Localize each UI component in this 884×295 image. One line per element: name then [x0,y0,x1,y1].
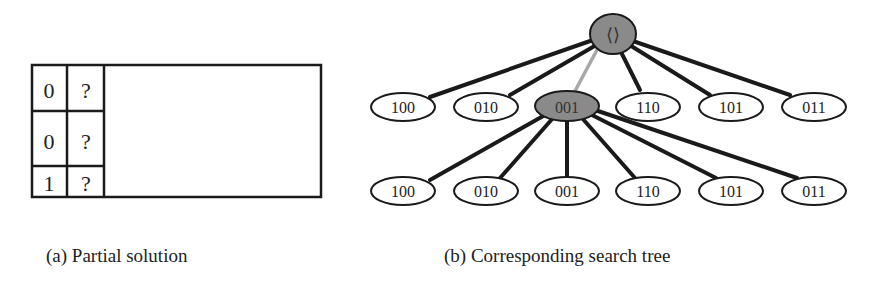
tree-node-label: 010 [474,183,498,200]
tree-node: 010 [454,177,518,205]
grid-cell: 0 [44,129,55,154]
tree-edge [430,40,593,97]
tree-node-label: 100 [391,99,415,116]
tree-node-label: 110 [636,183,659,200]
grid-cell: 0 [44,78,55,103]
tree-node-label: 011 [802,99,825,116]
caption-partial-solution: (a) Partial solution [46,245,187,267]
solution-frame [32,65,321,197]
tree-node: 011 [782,177,846,205]
tree-edge [582,118,635,178]
tree-node-label: 110 [636,99,659,116]
tree-node: 001 [535,177,599,205]
partial-solution-panel: 0 ? 0 ? 1 ? [32,65,321,197]
tree-node-highlighted: 001 [535,91,599,121]
grid-cell: ? [81,129,91,154]
tree-node-root: ⟨⟩ [590,14,636,54]
tree-edge [619,48,640,90]
tree-node-label: 010 [474,99,498,116]
tree-node-label: 101 [719,99,743,116]
tree-node: 011 [782,93,846,121]
tree-node: 100 [371,177,435,205]
tree-edge [630,40,790,95]
grid-cell: ? [81,78,91,103]
grid-cell: 1 [44,171,55,196]
tree-node-label: 001 [555,99,579,116]
tree-node-label: 100 [391,183,415,200]
tree-node: 110 [616,93,680,121]
tree-node-label: 101 [719,183,743,200]
tree-node: 010 [454,93,518,121]
tree-node: 101 [699,177,763,205]
search-tree-panel: ⟨⟩ 100 010 001 110 101 [371,14,846,205]
tree-node: 100 [371,93,435,121]
tree-node-label: ⟨⟩ [606,24,620,45]
tree-node-label: 001 [555,183,579,200]
tree-node: 101 [699,93,763,121]
grid-cell: ? [81,171,91,196]
tree-node-label: 011 [802,183,825,200]
tree-node: 110 [616,177,680,205]
caption-search-tree: (b) Corresponding search tree [444,245,670,267]
